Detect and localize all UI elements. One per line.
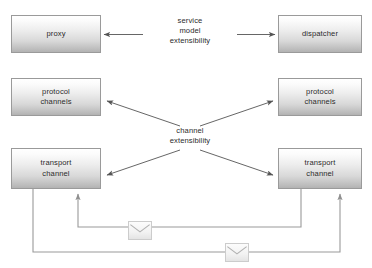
annotation-service-model-extensibility: service model extensibility	[144, 16, 236, 46]
envelope-icon	[128, 221, 152, 240]
arrow-channel-to-protocol-right	[200, 101, 273, 126]
node-proxy[interactable]: proxy	[11, 15, 101, 53]
arrow-channel-to-transport-right	[200, 150, 273, 175]
node-protocol-channels-right[interactable]: protocol channels	[278, 78, 362, 116]
node-dispatcher[interactable]: dispatcher	[278, 15, 362, 53]
node-transport-channel-left-label: transport channel	[41, 158, 72, 178]
envelope-flap-icon	[226, 244, 248, 261]
node-protocol-channels-right-label: protocol channels	[304, 87, 335, 107]
node-transport-channel-right[interactable]: transport channel	[278, 148, 362, 189]
node-proxy-label: proxy	[46, 29, 65, 39]
arrow-channel-to-protocol-left	[107, 101, 180, 126]
arrow-channel-to-transport-left	[107, 150, 180, 175]
message-path-left-to-right	[33, 189, 340, 252]
node-transport-channel-left[interactable]: transport channel	[11, 148, 101, 189]
annotation-channel-extensibility: channel extensibility	[144, 126, 236, 146]
node-transport-channel-right-label: transport channel	[305, 158, 336, 178]
extensibility-architecture-diagram: proxy dispatcher protocol channels proto…	[0, 0, 372, 268]
node-protocol-channels-left[interactable]: protocol channels	[11, 78, 101, 116]
envelope-icon	[225, 243, 249, 262]
node-protocol-channels-left-label: protocol channels	[40, 87, 71, 107]
message-path-right-to-left	[78, 189, 301, 227]
envelope-flap-icon	[129, 222, 151, 239]
node-dispatcher-label: dispatcher	[302, 29, 338, 39]
